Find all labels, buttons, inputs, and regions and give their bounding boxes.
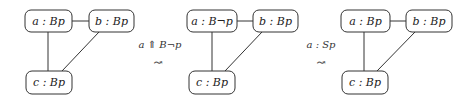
graph-1: a : Bp b : Bp c : Bp <box>25 10 134 94</box>
diagram: a : Bp b : Bp c : Bp a ⇑ B¬p ↝ a : B¬p b… <box>0 0 473 104</box>
node-c-label: c : Bp <box>196 76 228 89</box>
transition-1-arrow: ↝ <box>153 56 162 69</box>
node-c-label: c : Bp <box>349 76 381 89</box>
edge-b-c <box>225 32 262 71</box>
transition-2-label: a : Sp <box>307 39 337 50</box>
node-a-label: a : B¬p <box>191 15 233 28</box>
transition-2-arrow: ↝ <box>316 56 325 69</box>
transition-1-label: a ⇑ B¬p <box>139 39 182 50</box>
node-a-label: a : Bp <box>32 15 64 28</box>
edge-b-c <box>377 32 415 71</box>
graph-2: a : B¬p b : Bp c : Bp <box>187 10 298 94</box>
graph-3: a : Bp b : Bp c : Bp <box>341 10 452 94</box>
node-b-label: b : Bp <box>413 15 446 28</box>
node-c-label: c : Bp <box>33 76 65 89</box>
edge-b-c <box>62 32 99 71</box>
node-b-label: b : Bp <box>95 15 128 28</box>
node-a-label: a : Bp <box>349 15 381 28</box>
node-b-label: b : Bp <box>259 15 292 28</box>
